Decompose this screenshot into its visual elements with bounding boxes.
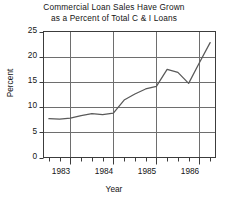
plot-area xyxy=(0,0,228,201)
axis-ticks xyxy=(40,33,211,165)
grid-lines xyxy=(44,32,216,158)
plot-frame xyxy=(44,32,216,158)
chart-figure: Commercial Loan Sales Have Grown as a Pe… xyxy=(0,0,228,201)
